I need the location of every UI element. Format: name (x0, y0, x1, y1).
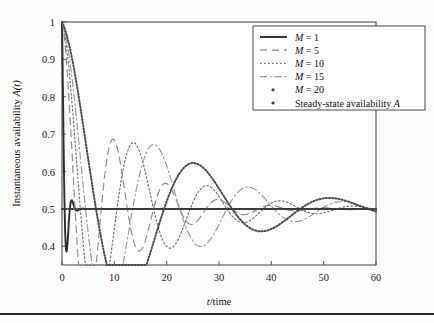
y-tick-label: 0.6 (42, 167, 55, 178)
x-tick-label: 40 (266, 272, 277, 283)
legend-label: M = 5 (294, 45, 319, 56)
legend-label: M = 20 (294, 84, 324, 95)
x-tick-label: 60 (371, 272, 382, 283)
y-tick-label: 1 (50, 17, 55, 28)
y-tick-label: 0.7 (42, 129, 55, 140)
y-tick-label: 0.5 (42, 204, 55, 215)
x-tick-label: 0 (59, 272, 64, 283)
x-axis-label: t/time (207, 296, 232, 307)
legend-marker (271, 88, 274, 91)
legend-marker (271, 101, 274, 104)
y-axis-label: Instantaneous availability A(t) (11, 80, 23, 207)
x-tick-label: 20 (161, 272, 172, 283)
legend-label: M = 10 (294, 58, 324, 69)
x-tick-label: 30 (214, 272, 225, 283)
legend-label: M = 1 (294, 32, 319, 43)
y-tick-label: 0.4 (42, 241, 56, 252)
y-tick-label: 0.9 (42, 54, 55, 65)
x-tick-label: 10 (109, 272, 120, 283)
footer-rule (0, 313, 434, 315)
chart-svg: 01020304050600.40.50.60.70.80.91t/timeIn… (0, 0, 434, 323)
legend-label: Steady-state availability A (295, 98, 401, 109)
y-tick-label: 0.8 (42, 92, 55, 103)
legend-label: M = 15 (294, 71, 324, 82)
x-tick-label: 50 (318, 272, 329, 283)
availability-chart-figure: 01020304050600.40.50.60.70.80.91t/timeIn… (0, 0, 434, 323)
